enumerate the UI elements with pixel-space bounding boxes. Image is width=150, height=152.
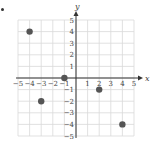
x-axis-arrow-icon: [138, 76, 143, 81]
y-axis-label: y: [74, 2, 80, 11]
x-tick-label: −3: [36, 80, 46, 88]
x-tick-label: −2: [48, 80, 58, 88]
data-point: [38, 98, 44, 104]
data-point: [61, 75, 67, 81]
y-tick-label: −3: [64, 109, 74, 117]
data-point: [119, 121, 125, 127]
data-point: [96, 86, 102, 92]
coordinate-plane-chart: xy−5−4−3−2−112345−5−4−3−2−112345: [0, 0, 150, 152]
y-tick-label: −1: [64, 86, 74, 94]
x-tick-label: 5: [132, 80, 136, 88]
y-tick-label: 4: [70, 28, 75, 36]
y-tick-label: 3: [70, 40, 74, 48]
x-tick-label: 4: [120, 80, 125, 88]
x-axis-label: x: [145, 74, 150, 83]
y-axis-arrow-icon: [74, 11, 79, 16]
x-tick-label: −5: [13, 80, 23, 88]
data-point: [26, 28, 32, 34]
y-tick-label: 1: [70, 63, 74, 71]
x-tick-label: −4: [24, 80, 35, 88]
y-tick-label: −2: [64, 98, 74, 106]
y-tick-label: 5: [70, 17, 74, 25]
x-tick-label: 3: [109, 80, 113, 88]
y-tick-label: −4: [64, 121, 75, 129]
x-tick-label: 1: [85, 80, 89, 88]
y-tick-label: −5: [64, 133, 74, 141]
y-tick-label: 2: [70, 51, 74, 59]
